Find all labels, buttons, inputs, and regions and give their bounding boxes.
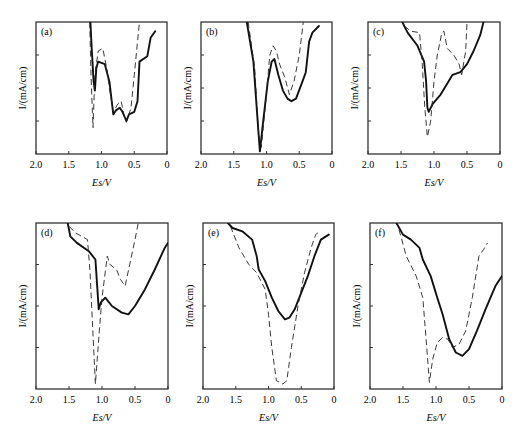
- panel-label: (a): [41, 26, 52, 38]
- y-axis-title: I/(mA/cm): [182, 67, 194, 110]
- x-axis-title: Es/V: [424, 177, 446, 188]
- panel-f: 2.01.51.00.50Es/VI/(mA/cm)(f): [351, 223, 505, 423]
- x-axis-title: Es/V: [256, 177, 278, 188]
- figure: 2.01.51.00.50Es/VI/(mA/cm)(a)2.01.51.00.…: [0, 0, 523, 439]
- x-tick-label: 1.5: [63, 159, 76, 170]
- solid-curve: [396, 223, 502, 356]
- panel-b: 2.01.51.00.50Es/VI/(mA/cm)(b): [182, 22, 335, 188]
- x-tick-label: 1.0: [95, 159, 108, 170]
- x-tick-label: 1.5: [230, 394, 243, 405]
- y-axis-title: I/(mA/cm): [17, 285, 29, 328]
- x-tick-label: 0.5: [295, 394, 308, 405]
- x-tick-label: 0: [165, 159, 170, 170]
- panel-e: 2.01.51.00.50Es/VI/(mA/cm)(e): [184, 223, 337, 423]
- x-tick-label: 2.0: [30, 394, 43, 405]
- x-tick-label: 1.0: [96, 394, 109, 405]
- x-axis-title: Es/V: [92, 412, 114, 423]
- dashed-curve: [399, 230, 488, 383]
- x-tick-label: 1.5: [397, 394, 410, 405]
- x-axis-title: Es/V: [258, 412, 280, 423]
- y-axis-title: I/(mA/cm): [349, 67, 361, 110]
- plot-frame: [370, 223, 502, 389]
- x-tick-label: 0: [166, 394, 171, 405]
- x-axis-title: Es/V: [91, 177, 113, 188]
- x-tick-label: 0.5: [128, 159, 141, 170]
- dashed-curve: [248, 22, 303, 147]
- x-tick-label: 2.0: [364, 394, 377, 405]
- y-axis-title: I/(mA/cm): [17, 67, 29, 110]
- x-tick-label: 2.0: [195, 159, 208, 170]
- x-tick-label: 0: [500, 394, 505, 405]
- x-tick-label: 1.0: [260, 159, 273, 170]
- x-axis-title: Es/V: [426, 412, 448, 423]
- x-tick-label: 1.0: [430, 394, 443, 405]
- dashed-curve: [69, 223, 138, 384]
- y-axis-title: I/(mA/cm): [184, 285, 196, 328]
- plot-frame: [368, 22, 500, 154]
- panel-label: (b): [206, 26, 218, 38]
- solid-curve: [247, 22, 319, 151]
- x-tick-label: 0.5: [129, 394, 142, 405]
- x-tick-label: 1.0: [428, 159, 441, 170]
- solid-curve: [90, 22, 155, 121]
- solid-curve: [228, 223, 329, 319]
- x-tick-label: 0.5: [463, 394, 476, 405]
- panel-label: (f): [375, 227, 385, 239]
- solid-curve: [68, 223, 168, 314]
- plot-frame: [203, 223, 334, 389]
- x-tick-label: 1.0: [262, 394, 275, 405]
- plot-frame: [36, 223, 168, 389]
- x-tick-label: 1.5: [228, 159, 241, 170]
- panel-a: 2.01.51.00.50Es/VI/(mA/cm)(a): [17, 22, 170, 188]
- x-tick-label: 2.0: [362, 159, 375, 170]
- x-tick-label: 0.5: [293, 159, 306, 170]
- panel-label: (d): [41, 227, 53, 239]
- x-tick-label: 0: [330, 159, 335, 170]
- x-tick-label: 1.5: [63, 394, 76, 405]
- panel-label: (e): [208, 227, 219, 239]
- plot-frame: [36, 22, 167, 154]
- panel-label: (c): [373, 26, 384, 38]
- x-tick-label: 0: [332, 394, 337, 405]
- solid-curve: [402, 22, 483, 112]
- x-tick-label: 2.0: [30, 159, 43, 170]
- x-tick-label: 1.5: [395, 159, 408, 170]
- panel-c: 2.01.51.00.50Es/VI/(mA/cm)(c): [349, 22, 503, 188]
- x-tick-label: 0: [498, 159, 503, 170]
- x-tick-label: 0.5: [461, 159, 474, 170]
- x-tick-label: 2.0: [197, 394, 210, 405]
- panel-d: 2.01.51.00.50Es/VI/(mA/cm)(d): [17, 223, 171, 423]
- y-axis-title: I/(mA/cm): [351, 285, 363, 328]
